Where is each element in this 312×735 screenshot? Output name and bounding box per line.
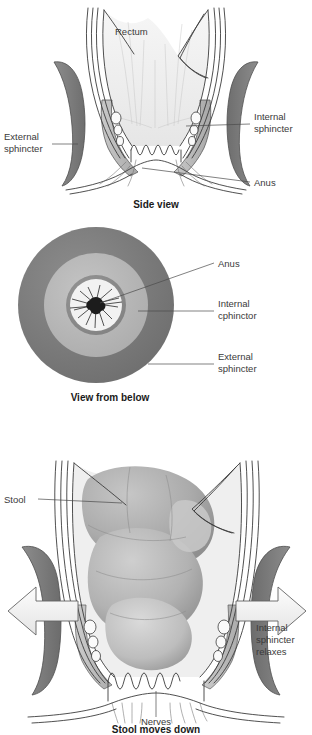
label-anus: Anus [254,177,276,188]
stool-view-illustration: Stool Internal sphincter relaxes Nerves … [0,405,312,735]
label-below-external-line2: sphincter [218,363,257,374]
caption-stool-view: Stool moves down [112,724,200,735]
label-below-anus: Anus [218,258,240,269]
label-relax-line1: Internal [256,622,288,633]
anal-canal-mucosa [131,145,181,162]
label-relax-line3: relaxes [256,646,287,657]
caption-below-view: View from below [71,392,150,403]
label-external-sphincter-line1: External [4,131,39,142]
perianal-skin [66,160,246,194]
external-sphincter-left [54,62,85,186]
label-internal-sphincter-line1: Internal [254,111,286,122]
label-below-internal-line2: cphinctor [218,310,257,321]
panel-stool-view: Stool Internal sphincter relaxes Nerves … [0,405,312,735]
label-below-internal-line1: Internal [218,298,250,309]
panel-below-view: Anus Internal cphinctor External sphinct… [0,215,312,405]
label-external-sphincter-line2: sphincter [4,143,43,154]
label-stool: Stool [4,494,26,505]
label-rectum: Rectum [115,26,148,37]
label-internal-sphincter-line2: sphincter [254,123,293,134]
panel-side-view: Rectum External sphincter Internal sphin… [0,0,312,215]
label-below-external-line1: External [218,351,253,362]
label-relax-line2: sphincter [256,634,295,645]
caption-side-view: Side view [133,199,179,210]
below-view-illustration: Anus Internal cphinctor External sphinct… [0,215,312,405]
side-view-illustration: Rectum External sphincter Internal sphin… [0,0,312,215]
